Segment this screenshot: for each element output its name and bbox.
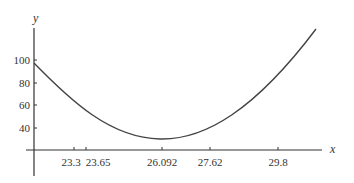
y-tick-label: 60 bbox=[19, 99, 31, 111]
x-tick-label: 29.8 bbox=[268, 156, 288, 168]
x-tick-label: 23.65 bbox=[86, 156, 111, 168]
y-tick-label: 100 bbox=[14, 54, 31, 66]
y-tick-label: 80 bbox=[19, 77, 31, 89]
y-axis-label: y bbox=[32, 11, 39, 25]
curve-line bbox=[34, 29, 316, 139]
x-tick-label: 27.62 bbox=[198, 156, 223, 168]
y-tick-label: 40 bbox=[19, 122, 31, 134]
x-axis-label: x bbox=[329, 142, 336, 156]
chart: y x 100 80 60 40 23.3 23.65 26.092 27.62… bbox=[0, 0, 354, 183]
x-tick-label: 23.3 bbox=[61, 156, 81, 168]
x-tick-label: 26.092 bbox=[147, 156, 177, 168]
